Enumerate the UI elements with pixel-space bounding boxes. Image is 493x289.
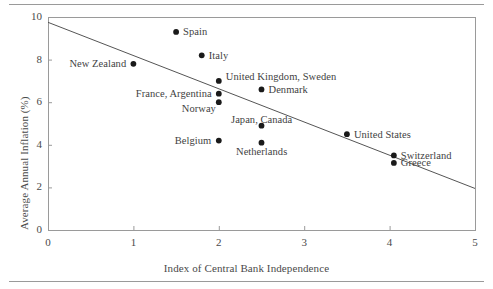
data-point-marker [216, 99, 222, 105]
data-point-marker [216, 91, 222, 97]
data-point-label: Italy [209, 50, 229, 61]
data-point-marker [199, 52, 205, 58]
data-point-label: Japan, Canada [231, 114, 292, 125]
data-point-marker [391, 153, 397, 159]
data-point-label: Denmark [269, 84, 308, 95]
chart-figure: 0123450246810 New ZealandSpainItalyUnite… [0, 0, 493, 289]
data-point-label: Norway [182, 103, 216, 114]
x-tick-label: 2 [204, 236, 234, 248]
data-point-label: France, Argentina [136, 88, 212, 99]
x-tick-label: 5 [460, 236, 490, 248]
data-point-marker [216, 138, 222, 144]
x-tick-label: 3 [289, 236, 319, 248]
x-tick-label: 1 [118, 236, 148, 248]
data-point-marker [259, 87, 265, 93]
data-point-label: Greece [401, 157, 431, 168]
x-tick-label: 4 [375, 236, 405, 248]
data-point-label: Netherlands [236, 146, 287, 157]
data-point-label: Spain [183, 26, 207, 37]
x-tick-label: 0 [33, 236, 63, 248]
data-point-label: Belgium [175, 135, 212, 146]
data-point-marker [173, 29, 179, 35]
y-tick-label: 10 [12, 10, 42, 22]
y-tick-label: 8 [12, 53, 42, 65]
data-point-marker [216, 78, 222, 84]
scatter-plot-canvas [0, 0, 493, 289]
data-point-marker [344, 131, 350, 137]
data-point-label: New Zealand [69, 58, 126, 69]
x-axis-title: Index of Central Bank Independence [0, 262, 493, 274]
data-point-marker [131, 61, 137, 67]
y-axis-title: Average Annual Inflation (%) [18, 96, 30, 230]
data-point-label: United States [354, 129, 411, 140]
data-point-label: United Kingdom, Sweden [226, 71, 336, 82]
data-point-marker [391, 160, 397, 166]
